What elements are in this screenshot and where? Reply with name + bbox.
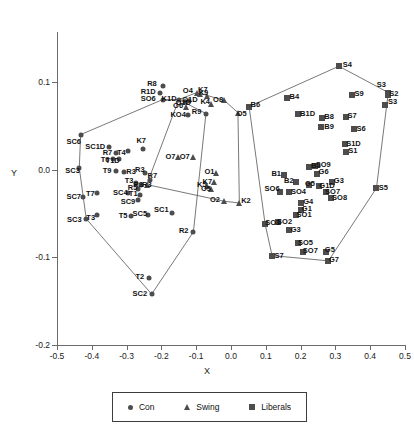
point-label: K2: [241, 197, 251, 205]
point-label: T9: [103, 167, 112, 175]
data-point-con: [191, 229, 196, 234]
point-label: SO8: [332, 194, 347, 202]
point-label: SC6: [66, 138, 81, 146]
point-label: B1: [271, 170, 281, 178]
con-hull: [79, 100, 206, 295]
legend-label: Liberals: [261, 402, 291, 412]
scatter-plot-figure: 0.10.0-0.1-0.2 -0.5-0.4-0.3-0.2-0.10.00.…: [0, 0, 414, 433]
x-tick-mark: [231, 345, 232, 350]
y-tick-label: 0.1: [22, 78, 50, 86]
point-label: G6: [319, 168, 329, 176]
data-point-con: [95, 213, 100, 218]
x-tick-label: 0.5: [390, 352, 414, 361]
x-tick-mark: [405, 345, 406, 350]
legend-square-icon: [249, 404, 255, 410]
data-point-con: [185, 113, 190, 118]
point-label: B4: [290, 93, 300, 101]
point-label: G5: [305, 180, 315, 188]
data-point-con: [114, 169, 119, 174]
data-point-con: [203, 111, 208, 116]
data-point-liberals: [293, 179, 299, 185]
y-tick-mark: [52, 82, 57, 83]
data-point-con: [161, 83, 166, 88]
point-label: S6: [357, 125, 366, 133]
point-label: K7: [136, 137, 146, 145]
data-point-swing: [221, 198, 227, 204]
point-label: B1D: [300, 110, 315, 118]
point-label: O1D: [182, 96, 197, 104]
point-label: O8: [213, 96, 223, 104]
x-tick-label: -0.4: [77, 352, 107, 361]
point-label: B2: [284, 177, 294, 185]
point-label: SC1: [154, 206, 169, 214]
point-label: G3: [334, 177, 344, 185]
y-tick-label: -0.1: [22, 253, 50, 261]
point-label: O5: [201, 185, 211, 193]
point-label: S4: [343, 61, 352, 69]
x-tick-label: -0.5: [42, 352, 72, 361]
point-label: T3: [86, 214, 95, 222]
point-label: O1: [204, 168, 214, 176]
point-label: S5: [379, 184, 388, 192]
x-tick-mark: [370, 345, 371, 350]
point-label: R3: [142, 181, 152, 189]
y-tick-label: -0.2: [22, 341, 50, 349]
x-tick-mark: [161, 345, 162, 350]
x-tick-mark: [57, 345, 58, 350]
point-label: O7: [180, 153, 190, 161]
point-label: SO4: [291, 188, 306, 196]
point-label: S7: [348, 112, 357, 120]
x-tick-label: 0.2: [286, 352, 316, 361]
point-label: T6: [101, 156, 110, 164]
point-label: O7: [165, 153, 175, 161]
point-label: S1: [348, 147, 357, 155]
point-label: SO7: [303, 247, 318, 255]
y-axis-title: Y: [11, 168, 17, 178]
data-point-con: [95, 191, 100, 196]
point-label: K7: [198, 86, 208, 94]
plot-area: 0.10.0-0.1-0.2 -0.5-0.4-0.3-0.2-0.10.00.…: [0, 0, 414, 380]
x-tick-mark: [335, 345, 336, 350]
point-label: B8: [324, 113, 334, 121]
data-point-con: [149, 292, 154, 297]
legend-label: Swing: [196, 402, 219, 412]
point-label: SC5: [133, 210, 148, 218]
point-label: KO4: [170, 111, 185, 119]
data-point-swing: [190, 154, 196, 160]
data-point-con: [126, 149, 131, 154]
x-tick-mark: [301, 345, 302, 350]
point-label: SC3: [67, 216, 82, 224]
point-label: T2: [135, 273, 144, 281]
data-point-con: [137, 193, 142, 198]
point-label: S3: [377, 81, 386, 89]
point-label: SC3: [65, 167, 80, 175]
x-tick-mark: [127, 345, 128, 350]
y-tick-mark: [52, 170, 57, 171]
point-label: SC7: [66, 193, 81, 201]
point-label: SC9: [121, 198, 136, 206]
legend-label: Con: [139, 402, 155, 412]
x-tick-label: 0.0: [216, 352, 246, 361]
point-label: O2: [210, 196, 220, 204]
x-axis-title: X: [0, 366, 414, 376]
point-label: SO6: [265, 185, 280, 193]
point-label: S3: [388, 98, 397, 106]
y-tick-mark: [52, 257, 57, 258]
data-point-con: [135, 198, 140, 203]
legend-triangle-icon: [184, 404, 190, 410]
point-label: SO1: [297, 211, 312, 219]
y-tick-label: 0.0: [22, 166, 50, 174]
point-label: S7: [274, 252, 283, 260]
point-label: B9: [324, 123, 334, 131]
point-label: SC2: [133, 290, 148, 298]
point-label: S9: [354, 90, 363, 98]
point-label: R2: [179, 227, 189, 235]
point-label: G3: [291, 226, 301, 234]
x-tick-label: -0.1: [181, 352, 211, 361]
x-tick-mark: [266, 345, 267, 350]
point-label: R9: [192, 108, 202, 116]
x-tick-label: 0.1: [251, 352, 281, 361]
point-label: B6: [251, 101, 261, 109]
point-label: T7: [86, 190, 95, 198]
x-tick-mark: [196, 345, 197, 350]
